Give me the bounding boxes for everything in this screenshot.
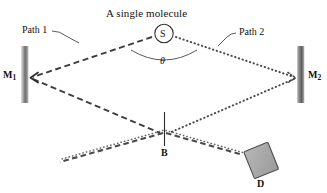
arrowhead-m1-icon <box>31 73 39 83</box>
caption-strip <box>0 186 327 193</box>
path2-leader-line <box>218 33 236 46</box>
output-beam-lower-left-dotted <box>60 131 163 160</box>
mirror-m2-subscript: 2 <box>317 73 321 82</box>
path1-label: Path 1 <box>22 25 47 35</box>
figure-title: A single molecule <box>106 8 187 19</box>
beamsplitter-label-b: B <box>161 148 168 158</box>
path1-source-to-m1 <box>33 37 152 77</box>
mirror-m1-label: M1 <box>3 70 16 80</box>
mirror-m1-subscript: 1 <box>12 73 16 82</box>
interferometer-figure: A single molecule S θ Path 1 Path 2 M1 M… <box>0 0 327 193</box>
path2-label: Path 2 <box>239 27 264 37</box>
path2-m2-to-b <box>169 79 294 133</box>
detector-d-body <box>244 142 279 179</box>
path1-m1-to-b <box>33 79 160 133</box>
path1-leader-line <box>52 31 79 43</box>
source-label-s: S <box>160 29 166 39</box>
output-beam-to-detector-dotted <box>166 131 243 153</box>
output-beam-to-detector-dashed <box>166 133 243 155</box>
angle-label-theta: θ <box>160 56 165 66</box>
mirror-m2-label: M2 <box>308 70 321 80</box>
mirror-m1-bar <box>21 46 29 103</box>
mirror-m2-bar <box>297 46 305 103</box>
output-beam-lower-left-dashed <box>60 133 163 162</box>
arrowhead-m2-icon <box>288 73 296 83</box>
path2-source-to-m2 <box>176 37 294 77</box>
